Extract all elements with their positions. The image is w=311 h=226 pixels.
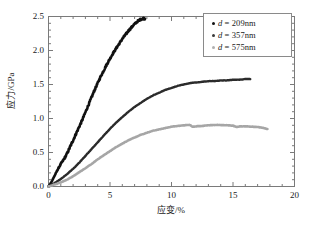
x-axis-label: 应变/% xyxy=(48,203,294,216)
legend-marker-dot-icon xyxy=(208,22,218,25)
y-axis-label: 应力/GPa xyxy=(4,59,17,123)
legend-marker-dot-icon xyxy=(208,46,218,49)
x-tick-label: 20 xyxy=(280,190,310,200)
x-tick-label: 10 xyxy=(157,190,187,200)
legend-item: d = 209nm xyxy=(208,17,288,29)
x-tick-label: 5 xyxy=(95,190,125,200)
chart-legend: d = 209nmd = 357nmd = 575nm xyxy=(203,13,292,57)
figure-container: 0.00.51.01.52.02.5 05101520 应力/GPa 应变/% … xyxy=(0,0,311,226)
y-tick-label: 1.5 xyxy=(14,79,44,89)
y-tick-label: 0.5 xyxy=(14,147,44,157)
legend-item: d = 575nm xyxy=(208,41,288,53)
legend-item-label: d = 575nm xyxy=(218,42,256,52)
y-tick-label: 2.0 xyxy=(14,45,44,55)
x-tick-label: 0 xyxy=(34,190,64,200)
legend-item-label: d = 209nm xyxy=(218,18,256,28)
legend-marker-dot-icon xyxy=(208,34,218,37)
y-tick-label: 1.0 xyxy=(14,113,44,123)
legend-item: d = 357nm xyxy=(208,29,288,41)
legend-item-label: d = 357nm xyxy=(218,30,256,40)
x-tick-label: 15 xyxy=(218,190,248,200)
y-tick-label: 2.5 xyxy=(14,11,44,21)
